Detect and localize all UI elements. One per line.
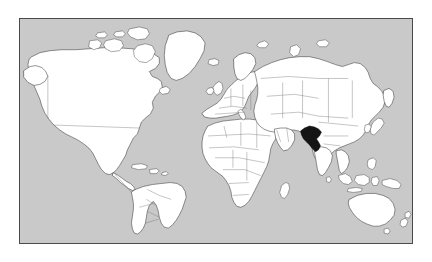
arctic-island-small-a (114, 31, 126, 37)
arctic-island-small-b (96, 32, 108, 38)
world-locator-map (19, 18, 413, 244)
map-canvas (20, 19, 412, 243)
java (347, 187, 362, 192)
